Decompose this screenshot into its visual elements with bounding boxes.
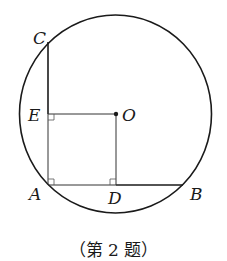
right-angle-mark-d [110,179,116,185]
label-d: D [107,188,122,208]
right-angle-mark-a [48,179,54,185]
label-b: B [189,184,203,204]
right-angle-mark-e [48,114,54,120]
center-point-o [114,112,118,116]
figure-caption: （第 2 题） [0,236,227,261]
label-c: C [33,28,46,48]
geometry-diagram: C E O A D B [0,0,227,261]
label-o: O [122,105,136,125]
label-e: E [27,105,41,125]
label-a: A [27,184,41,204]
